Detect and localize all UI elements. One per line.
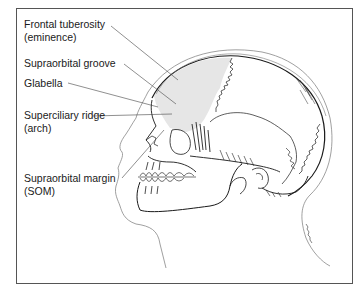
occipital-base [262, 176, 308, 194]
label-supraorbital-margin-line2: (SOM) [24, 185, 116, 198]
label-superciliary-ridge-line1: Superciliary ridge [24, 109, 105, 122]
lambdoid-suture [299, 124, 320, 174]
label-superciliary-ridge-line2: (arch) [24, 122, 105, 135]
label-frontal-tuberosity: Frontal tuberosity (eminence) [24, 18, 105, 44]
mandible [137, 164, 242, 212]
face-profile-outline [115, 92, 166, 268]
label-supraorbital-groove: Supraorbital groove [24, 57, 116, 70]
label-glabella: Glabella [24, 77, 63, 90]
mastoid-process [252, 168, 268, 188]
lower-teeth [140, 178, 184, 182]
leader-glabella [68, 83, 158, 107]
leader-supraorbital-margin [122, 130, 164, 178]
leader-frontal-tuberosity [111, 26, 178, 80]
label-supraorbital-margin-line1: Supraorbital margin [24, 172, 116, 185]
orbit [170, 129, 190, 154]
squamosal-suture [210, 113, 297, 184]
label-frontal-tuberosity-line1: Frontal tuberosity [24, 18, 105, 31]
label-supraorbital-groove-line1: Supraorbital groove [24, 57, 116, 70]
label-superciliary-ridge: Superciliary ridge (arch) [24, 109, 105, 135]
maxilla [148, 156, 196, 172]
zygomatic-arch [190, 156, 280, 172]
label-supraorbital-margin: Supraorbital margin (SOM) [24, 172, 116, 198]
label-frontal-tuberosity-line2: (eminence) [24, 31, 105, 44]
label-glabella-line1: Glabella [24, 77, 63, 90]
upper-teeth [140, 173, 194, 177]
